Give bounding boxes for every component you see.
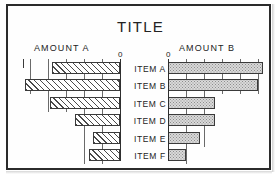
bar-left-item-b [25,79,120,91]
page-edge-shadow-bottom [6,171,272,174]
bar-left-item-e [93,132,120,144]
bar-left-item-f [89,149,120,161]
page-edge-shadow-right [272,4,275,172]
bar-left-item-a [52,62,120,74]
zero-axis-right [168,59,169,161]
chart-frame: TITLE AMOUNT A AMOUNT B 0 0 ITEM AITEM B… [6,4,271,170]
bar-right-item-b [168,79,258,91]
plot-area: ITEM AITEM BITEM CITEM DITEM EITEM F [8,6,273,172]
bar-left-item-c [50,97,120,109]
bar-left-item-d [75,114,120,126]
bar-right-item-a [168,62,263,74]
gridline [84,59,85,164]
axis-tick [23,59,24,68]
gridline [186,59,187,164]
zero-axis-left [120,59,121,161]
